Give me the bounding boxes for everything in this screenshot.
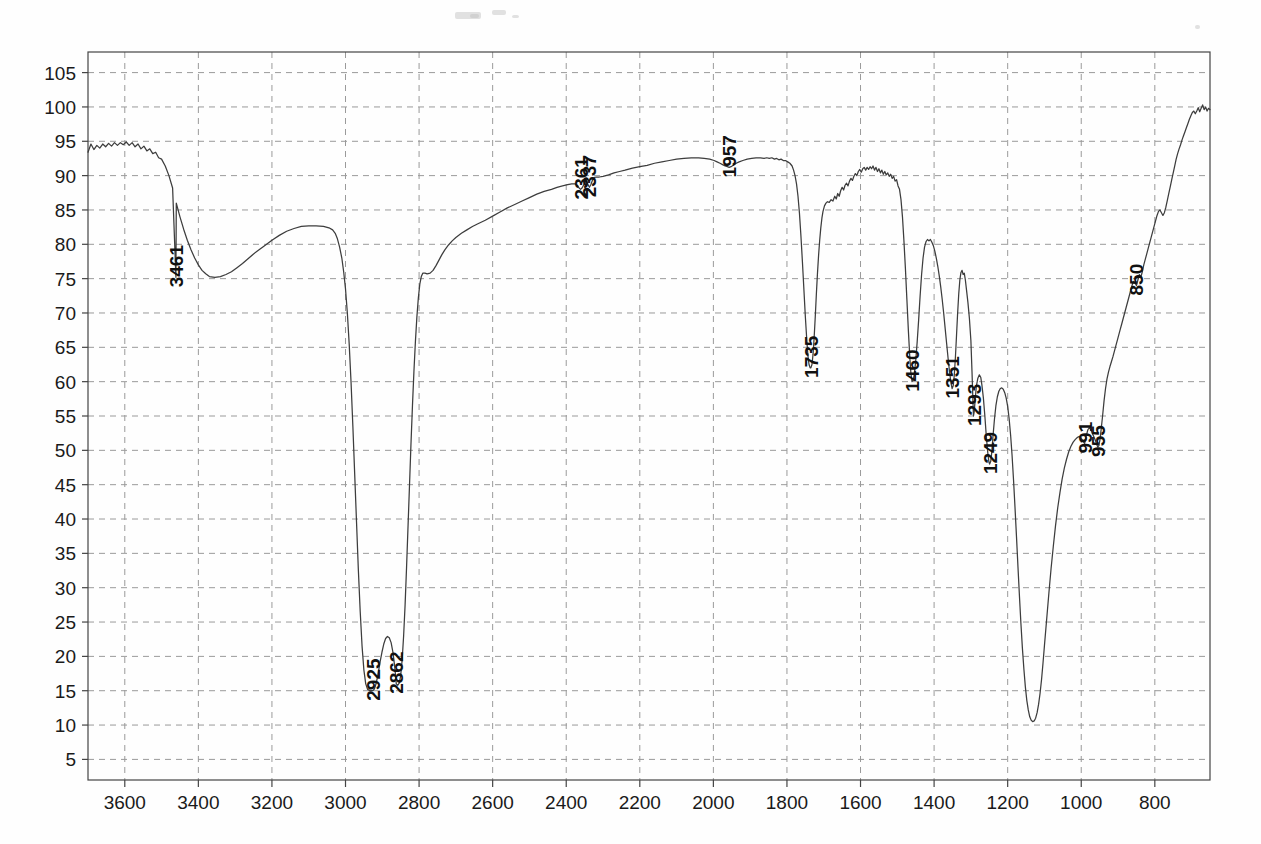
figure-background <box>0 0 1261 844</box>
y-tick-label: 5 <box>65 749 76 770</box>
y-tick-label: 70 <box>55 303 76 324</box>
x-tick-label: 3000 <box>324 792 366 813</box>
y-tick-label: 25 <box>55 612 76 633</box>
y-tick-label: 65 <box>55 337 76 358</box>
y-tick-label: 15 <box>55 681 76 702</box>
x-tick-label: 1400 <box>913 792 955 813</box>
y-tick-label: 20 <box>55 646 76 667</box>
peak-label-3461: 3461 <box>166 245 187 288</box>
peak-label-1249: 1249 <box>980 432 1001 474</box>
peak-label-1460: 1460 <box>902 349 923 391</box>
ir-spectrum-figure: 5101520253035404550556065707580859095100… <box>0 0 1261 844</box>
x-tick-label: 2200 <box>619 792 661 813</box>
y-tick-label: 35 <box>55 543 76 564</box>
y-tick-label: 30 <box>55 578 76 599</box>
x-tick-label: 2400 <box>545 792 587 813</box>
x-tick-label: 800 <box>1139 792 1171 813</box>
chart-container: 5101520253035404550556065707580859095100… <box>0 0 1261 844</box>
peak-label-955: 955 <box>1088 425 1109 457</box>
y-tick-label: 45 <box>55 475 76 496</box>
y-tick-label: 80 <box>55 234 76 255</box>
y-tick-label: 100 <box>44 97 76 118</box>
x-tick-label: 1800 <box>766 792 808 813</box>
x-tick-label: 3400 <box>177 792 219 813</box>
y-tick-label: 60 <box>55 372 76 393</box>
x-tick-label: 2800 <box>398 792 440 813</box>
peak-label-1351: 1351 <box>942 356 963 399</box>
y-tick-label: 90 <box>55 166 76 187</box>
y-tick-label: 10 <box>55 715 76 736</box>
y-tick-label: 95 <box>55 131 76 152</box>
x-tick-label: 2600 <box>472 792 514 813</box>
spectrum-chart: 5101520253035404550556065707580859095100… <box>0 0 1261 844</box>
scan-artifact <box>470 14 479 18</box>
scan-artifact <box>512 15 519 18</box>
y-tick-label: 55 <box>55 406 76 427</box>
x-tick-label: 1000 <box>1060 792 1102 813</box>
x-tick-label: 3200 <box>251 792 293 813</box>
peak-label-850: 850 <box>1126 264 1147 296</box>
peak-label-1957: 1957 <box>719 135 740 177</box>
peak-label-1293: 1293 <box>964 384 985 426</box>
scan-artifact <box>1195 25 1200 29</box>
y-tick-label: 85 <box>55 200 76 221</box>
peak-label-2337: 2337 <box>579 155 600 197</box>
scan-artifact <box>492 10 506 15</box>
peak-label-2862: 2862 <box>386 652 407 694</box>
x-tick-label: 1600 <box>839 792 881 813</box>
y-tick-label: 40 <box>55 509 76 530</box>
peak-label-2925: 2925 <box>363 658 384 701</box>
x-tick-label: 2000 <box>692 792 734 813</box>
x-tick-label: 3600 <box>104 792 146 813</box>
y-tick-label: 50 <box>55 440 76 461</box>
y-tick-label: 105 <box>44 63 76 84</box>
y-tick-label: 75 <box>55 269 76 290</box>
x-tick-label: 1200 <box>987 792 1029 813</box>
peak-label-1735: 1735 <box>801 335 822 378</box>
